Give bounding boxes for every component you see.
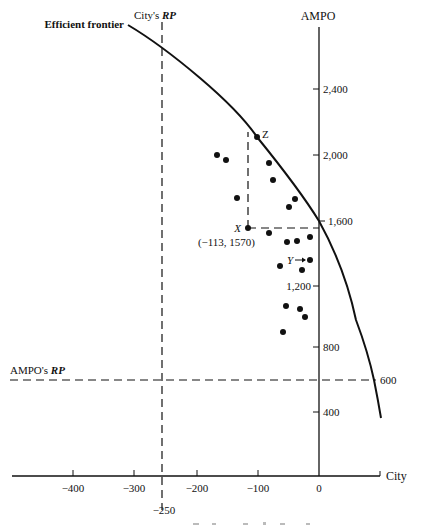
data-point [234,195,240,201]
x-point-guides [248,132,319,228]
y-tick-label: 2,400 [323,83,348,95]
city-rp-italic: RP [161,9,176,21]
data-point [277,263,283,269]
x-axis: −400 −300 −200 −100 0 City [12,469,407,494]
x-tick-label: −200 [186,482,209,494]
svg-text:City's RP: City's RP [134,9,176,21]
point-z-label: Z [262,128,269,140]
data-point [214,152,220,158]
city-rp-label: City's [134,9,162,21]
data-point [297,306,303,312]
point-x: X (−113, 1570) [198,222,255,249]
frontier-label: Efficient frontier [44,18,124,30]
point-x-coords: (−113, 1570) [198,236,255,249]
y-tick-label: 2,000 [323,149,348,161]
svg-text:AMPO's RP: AMPO's RP [10,364,65,376]
city-rp-value: −250 [153,504,176,516]
caption-remnant [193,522,310,525]
data-point [266,160,272,166]
data-point [266,230,272,236]
data-point [283,303,289,309]
y-tick-label: 400 [323,406,340,418]
data-point [223,157,229,163]
y-tick-label: 1,200 [286,280,311,292]
y-axis-title: AMPO [301,9,336,23]
x-axis-title: City [386,469,407,483]
city-reservation-price: City's RP −250 [134,9,176,516]
x-tick-label: 0 [316,482,322,494]
ampo-reservation-price: AMPO's RP 600 [10,364,397,386]
point-y-label: Y [287,254,295,266]
data-point [284,239,290,245]
x-tick-label: −400 [62,482,85,494]
point-y: Y [287,254,313,266]
data-point [292,196,298,202]
data-point [280,329,286,335]
ampo-rp-value: 600 [380,374,397,386]
data-point [302,314,308,320]
bargaining-scatter-chart: −400 −300 −200 −100 0 City 2,400 2,000 1… [0,0,423,528]
data-point [307,234,313,240]
y-tick-label: 800 [323,341,340,353]
data-point [294,238,300,244]
point-z: Z [254,128,269,140]
x-tick-label: −100 [247,482,270,494]
ampo-rp-italic: RP [50,364,65,376]
point-x-label: X [233,222,242,234]
x-tick-label: −300 [123,482,146,494]
data-point [270,177,276,183]
data-point [299,267,305,273]
data-point [286,204,292,210]
arrowhead-icon [302,258,306,263]
y-tick-label: 1,600 [328,215,353,227]
ampo-rp-label: AMPO's [10,364,51,376]
